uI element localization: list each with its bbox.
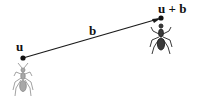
ant-start-icon [13, 63, 33, 96]
label-u: u [16, 39, 23, 54]
point-u-plus-b [158, 15, 163, 20]
label-b: b [89, 23, 96, 38]
vector-addition-diagram: u b u + b [0, 0, 197, 100]
label-u-plus-b: u + b [158, 1, 186, 16]
ant-end-icon [150, 24, 172, 54]
point-u [20, 55, 25, 60]
